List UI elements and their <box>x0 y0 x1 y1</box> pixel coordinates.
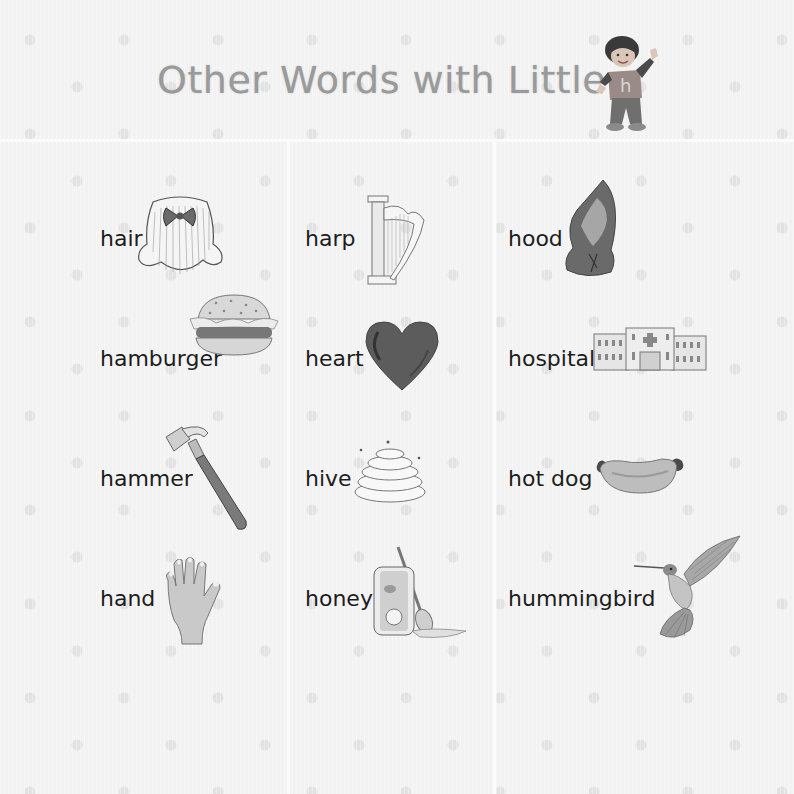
hood-icon <box>563 178 619 280</box>
word-honey: honey <box>305 586 373 611</box>
hammer-icon <box>164 425 254 535</box>
boy-mascot-icon: h <box>592 28 662 132</box>
hospital-icon <box>592 326 708 372</box>
word-hive: hive <box>305 466 352 491</box>
hummingbird-icon <box>634 534 744 644</box>
hair-icon <box>133 194 228 279</box>
word-heart: heart <box>305 346 364 371</box>
word-hot-dog: hot dog <box>508 466 592 491</box>
page-title: Other Words with Little <box>157 58 606 102</box>
heart-icon <box>364 320 440 392</box>
word-harp: harp <box>305 226 355 251</box>
column-divider-1 <box>287 140 290 794</box>
hamburger-icon <box>186 293 280 358</box>
background-dot-pattern <box>0 0 794 794</box>
honey-icon <box>370 545 470 641</box>
hot-dog-icon <box>592 455 688 497</box>
word-hood: hood <box>508 226 563 251</box>
hive-icon <box>352 440 428 504</box>
hand-icon <box>160 556 222 648</box>
word-hospital: hospital <box>508 346 595 371</box>
column-divider-2 <box>493 140 496 794</box>
background-texture <box>0 0 794 794</box>
harp-icon <box>364 194 430 286</box>
header-divider <box>0 139 794 142</box>
svg-text:h: h <box>620 75 631 96</box>
word-hand: hand <box>100 586 155 611</box>
